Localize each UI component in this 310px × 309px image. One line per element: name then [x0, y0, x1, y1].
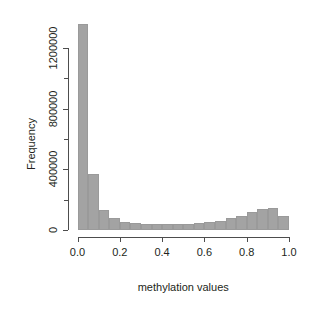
- y-axis-tick-label: 400000: [48, 151, 59, 188]
- x-axis-title: methylation values: [138, 282, 229, 293]
- histogram-bar: [141, 224, 152, 230]
- histogram-bar: [247, 212, 258, 230]
- histogram-bar: [226, 218, 237, 230]
- x-axis-tick: [204, 237, 205, 242]
- histogram-bar: [130, 223, 141, 230]
- y-axis-tick-major: [63, 109, 68, 110]
- x-axis-tick-label: 0.6: [197, 247, 212, 258]
- histogram-bar: [183, 224, 194, 230]
- x-axis-line: [78, 237, 290, 238]
- y-axis-line: [68, 48, 69, 230]
- x-axis-tick: [247, 237, 248, 242]
- histogram-bar: [88, 174, 99, 230]
- y-axis-tick-label: 800000: [48, 90, 59, 127]
- y-axis-tick-label: 1200000: [48, 27, 59, 70]
- histogram-bar: [162, 224, 173, 230]
- y-axis-tick-minor: [64, 139, 68, 140]
- y-axis-tick-minor: [64, 200, 68, 201]
- histogram-bar: [152, 224, 163, 230]
- y-axis-tick-minor: [64, 78, 68, 79]
- histogram-bar: [109, 218, 120, 230]
- histogram-bar: [204, 222, 215, 230]
- histogram-bar: [236, 216, 247, 230]
- histogram-bar: [173, 224, 184, 230]
- histogram-bar: [268, 208, 279, 230]
- histogram-figure: 040000080000012000000.00.20.40.60.81.0 F…: [0, 0, 310, 309]
- x-axis-tick: [162, 237, 163, 242]
- y-axis-tick-major: [63, 48, 68, 49]
- x-axis-tick-label: 0.0: [70, 247, 85, 258]
- y-axis-title: Frequency: [26, 118, 37, 170]
- y-axis-tick-major: [63, 169, 68, 170]
- x-axis-tick-label: 1.0: [281, 247, 296, 258]
- x-axis-tick: [78, 237, 79, 242]
- y-axis-tick-major: [63, 230, 68, 231]
- y-axis-tick-label: 0: [48, 227, 59, 233]
- x-axis-tick-label: 0.2: [112, 247, 127, 258]
- histogram-bar: [215, 221, 226, 230]
- x-axis-tick-label: 0.4: [154, 247, 169, 258]
- histogram-bar: [278, 216, 289, 230]
- histogram-bar: [99, 210, 110, 230]
- x-axis-tick: [289, 237, 290, 242]
- histogram-bar: [194, 223, 205, 230]
- histogram-bar: [120, 222, 131, 230]
- histogram-bar: [257, 209, 268, 230]
- plot-area: 040000080000012000000.00.20.40.60.81.0: [0, 0, 310, 309]
- x-axis-tick-label: 0.8: [239, 247, 254, 258]
- x-axis-tick: [120, 237, 121, 242]
- histogram-bar: [78, 24, 89, 230]
